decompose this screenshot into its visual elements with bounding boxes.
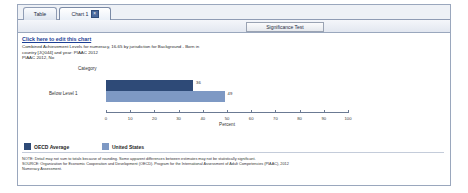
tab-table-label: Table	[34, 11, 46, 17]
tab-chart-1-label: Chart 1	[71, 11, 88, 17]
legend-item-oecd-average[interactable]: OECD Average	[24, 137, 69, 145]
legend-label: United States	[112, 144, 144, 150]
legend-label: OECD Average	[34, 144, 69, 150]
x-axis-tick	[130, 110, 131, 113]
x-axis-tick	[324, 110, 325, 113]
x-axis-tick	[203, 110, 204, 113]
category-tick-label: Below Level 1	[49, 91, 78, 96]
application-window: Table Chart 1× Chart Significance Test C…	[0, 0, 468, 193]
bar-chart: Category Below Level 1 01020304050607080…	[18, 66, 450, 132]
tab-strip: Table Chart 1×	[18, 5, 450, 20]
x-axis-tick	[179, 110, 180, 113]
chart-content: Click here to edit this chart Combined A…	[18, 33, 450, 185]
legend-item-united-states[interactable]: United States	[102, 137, 144, 145]
close-icon[interactable]: ×	[91, 10, 99, 18]
chart-footnote: NOTE: Detail may not sum to totals becau…	[22, 157, 442, 173]
edit-chart-link[interactable]: Click here to edit this chart	[22, 36, 91, 42]
x-axis-tick	[251, 110, 252, 113]
tab-chart-1[interactable]: Chart 1×	[59, 7, 111, 20]
bar-value-label: 49	[228, 91, 233, 96]
x-axis-tick-label: 90	[321, 116, 326, 121]
legend-swatch-icon	[24, 143, 31, 150]
x-axis-tick	[154, 110, 155, 113]
x-axis-tick-label: 10	[128, 116, 133, 121]
x-axis-tick	[106, 110, 107, 113]
x-axis-tick	[300, 110, 301, 113]
category-axis-title: Category	[78, 66, 97, 71]
legend-swatch-icon	[102, 143, 109, 150]
significance-test-button[interactable]: Significance Test	[246, 22, 324, 32]
report-panel: Table Chart 1× Chart Significance Test C…	[17, 4, 451, 186]
footnote-source-continued: Numeracy Assessment.	[22, 167, 442, 172]
chart-subtitle-line-3: PIAAC 2012, No	[22, 55, 322, 61]
chart-subtitle: Combined Achievement Levels for numeracy…	[22, 44, 322, 61]
x-axis-tick-label: 50	[225, 116, 230, 121]
x-axis-title: Percent	[106, 122, 348, 127]
x-axis-tick	[275, 110, 276, 113]
plot-area: 0102030405060708090100 3649	[106, 75, 348, 113]
x-axis-tick	[348, 110, 349, 113]
x-axis-tick-label: 80	[297, 116, 302, 121]
x-axis-tick-label: 100	[345, 116, 352, 121]
x-axis-tick-label: 60	[249, 116, 254, 121]
x-axis-tick-label: 70	[273, 116, 278, 121]
footnote-divider	[22, 152, 444, 153]
x-axis-tick-label: 30	[176, 116, 181, 121]
tab-table[interactable]: Table	[23, 7, 57, 20]
x-axis-tick	[227, 110, 228, 113]
x-axis-tick-label: 40	[200, 116, 205, 121]
bar[interactable]	[106, 80, 193, 91]
toolbar: Chart Significance Test	[18, 20, 450, 33]
bar[interactable]	[106, 91, 225, 102]
x-axis-tick-label: 20	[152, 116, 157, 121]
bar-value-label: 36	[196, 80, 201, 85]
x-axis-tick-label: 0	[105, 116, 107, 121]
